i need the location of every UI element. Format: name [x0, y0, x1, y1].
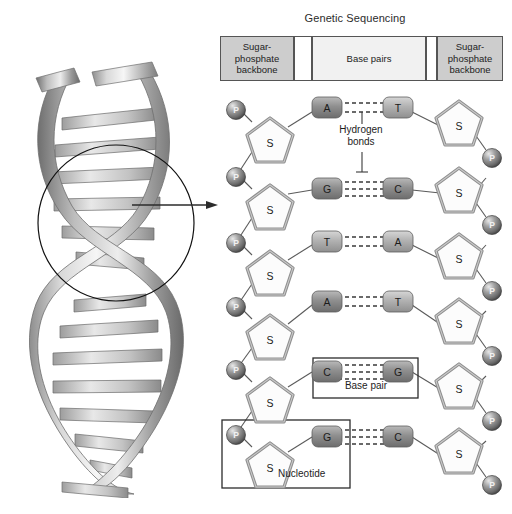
legend-base-pairs: Base pairs [312, 36, 426, 81]
base-badge [312, 291, 342, 312]
base-letter-right: G [394, 366, 402, 378]
dna-figure: Genetic Sequencing Sugar-phosphate backb… [0, 0, 512, 514]
base-letter-left: G [323, 183, 331, 195]
base-badge [312, 97, 342, 118]
phosphate-label: P [489, 286, 495, 296]
base-letter-left: A [323, 296, 330, 308]
phosphate-label: P [489, 153, 495, 163]
base-badge [312, 361, 342, 382]
phosphate-group-right: P P P P P P [483, 149, 502, 495]
sugar-group-right [436, 101, 482, 473]
base-badge [383, 231, 413, 252]
sugar-label: S [266, 334, 273, 346]
sugar-labels-right: S S S S S S [455, 120, 462, 460]
base-letter-right: T [395, 296, 402, 308]
figure-title: Genetic Sequencing [238, 12, 472, 24]
phosphate-label: P [489, 351, 495, 361]
base-pair-label: Base pair [330, 380, 402, 392]
legend-sugar-phosphate-backbone-left: Sugar-phosphate backbone [220, 36, 294, 81]
sugar-label: S [266, 204, 273, 216]
base-letter-left: C [323, 366, 331, 378]
phosphate-icon [483, 412, 502, 431]
backbone-bonds [239, 112, 486, 477]
sugar-pentagon-icon [247, 185, 293, 229]
magnifier-arrow [132, 201, 218, 209]
sugar-label: S [455, 448, 462, 460]
phosphate-icon [227, 426, 246, 445]
hydrogen-bonds-label: Hydrogen bonds [328, 124, 394, 147]
phosphate-icon [227, 168, 246, 187]
phosphate-icon [483, 282, 502, 301]
sugar-pentagon-icon [247, 251, 293, 295]
base-pair-callout-box [313, 358, 418, 398]
phosphate-icon [483, 347, 502, 366]
base-badge [383, 97, 413, 118]
helix-cap-top-left [36, 68, 80, 92]
legend-spacer-right [426, 36, 437, 81]
helix-cap-bottom [62, 482, 128, 498]
phosphate-group-left: P P P P P P [227, 101, 246, 445]
phosphate-icon [227, 101, 246, 120]
legend-sugar-phosphate-backbone-right: Sugar-phosphate backbone [437, 36, 503, 81]
sugar-group-right-inner [436, 101, 482, 473]
base-group-right: T C A T G C [383, 97, 413, 447]
phosphate-icon [227, 298, 246, 317]
sugar-pentagon-icon [247, 118, 293, 162]
nucleotide-label: Nucleotide [278, 468, 350, 480]
base-letter-left: T [324, 236, 331, 248]
base-letter-right: A [394, 236, 401, 248]
base-letter-right: C [394, 183, 402, 195]
base-badge [383, 178, 413, 199]
sugar-pentagon-icon [247, 378, 293, 422]
helix-cap-top-right [92, 62, 158, 86]
base-letter-left: A [323, 102, 330, 114]
sugar-label: S [455, 383, 462, 395]
sugar-label: S [455, 253, 462, 265]
phosphate-icon [227, 234, 246, 253]
phosphate-icon [227, 361, 246, 380]
sugar-group-left [247, 118, 293, 487]
sugar-label: S [266, 462, 273, 474]
sugar-pentagon-icon [436, 429, 482, 473]
phosphate-label: P [233, 238, 239, 248]
phosphate-label: P [233, 430, 239, 440]
helix-strand-front [29, 72, 169, 494]
sugar-pentagon-icon [436, 234, 482, 278]
sugar-label: S [455, 187, 462, 199]
sugar-group-left-inner [247, 118, 293, 487]
base-letter-right: C [394, 431, 402, 443]
hydrogen-bond-lines [331, 103, 394, 444]
helix-strand-back [38, 74, 184, 490]
sugar-pentagon-icon [436, 101, 482, 145]
phosphate-label: P [489, 220, 495, 230]
sugar-label: S [266, 270, 273, 282]
sugar-label: S [455, 318, 462, 330]
phosphate-label: P [233, 172, 239, 182]
sugar-pentagon-icon [247, 443, 293, 487]
helix-rungs [52, 108, 162, 478]
base-badge [383, 426, 413, 447]
base-letter-left: G [323, 431, 331, 443]
phosphate-label: P [233, 302, 239, 312]
base-badge [383, 291, 413, 312]
magnifier-circle [38, 145, 194, 301]
phosphate-label: P [489, 480, 495, 490]
sugar-label: S [455, 120, 462, 132]
phosphate-icon [483, 476, 502, 495]
phosphate-icon [483, 149, 502, 168]
base-badge [312, 231, 342, 252]
phosphate-icon [483, 216, 502, 235]
phosphate-label: P [233, 365, 239, 375]
sugar-pentagon-icon [247, 315, 293, 359]
sugar-label: S [266, 137, 273, 149]
base-badge [312, 426, 342, 447]
phosphate-label: P [489, 416, 495, 426]
sugar-labels-left: S S S S S S [266, 137, 273, 474]
sugar-pentagon-icon [436, 299, 482, 343]
base-badge [383, 361, 413, 382]
sugar-pentagon-icon [436, 364, 482, 408]
base-letter-right: T [395, 102, 402, 114]
sugar-pentagon-icon [436, 168, 482, 212]
helix-ribbons [29, 62, 183, 498]
sugar-label: S [266, 397, 273, 409]
